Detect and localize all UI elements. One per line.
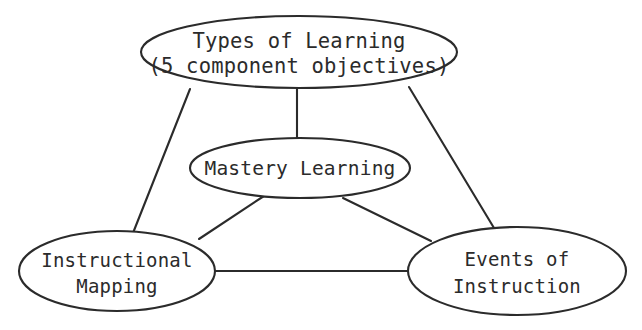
- edge-mastery-to-mapping: [199, 196, 264, 239]
- concept-diagram-canvas: Types of Learning (5 component objective…: [0, 0, 642, 330]
- node-label-events-of-instruction-line2: Instruction: [453, 275, 581, 297]
- node-events-of-instruction[interactable]: Events of Instruction: [408, 227, 626, 315]
- node-mastery-learning[interactable]: Mastery Learning: [190, 138, 410, 198]
- node-label-instructional-mapping-line2: Mapping: [76, 275, 157, 297]
- node-ellipse-instructional-mapping[interactable]: [19, 231, 215, 311]
- node-types-of-learning[interactable]: Types of Learning (5 component objective…: [141, 16, 457, 88]
- node-instructional-mapping[interactable]: Instructional Mapping: [19, 231, 215, 311]
- node-ellipse-events-of-instruction[interactable]: [408, 227, 626, 315]
- node-label-types-of-learning-line2: (5 component objectives): [148, 54, 449, 78]
- node-label-mastery-learning: Mastery Learning: [204, 157, 395, 180]
- node-label-instructional-mapping-line1: Instructional: [41, 249, 192, 271]
- node-label-events-of-instruction-line1: Events of: [465, 248, 570, 270]
- concept-diagram-svg: Types of Learning (5 component objective…: [0, 0, 642, 330]
- edge-mastery-to-events: [343, 198, 431, 241]
- node-label-types-of-learning-line1: Types of Learning: [192, 29, 405, 53]
- edge-types-to-events: [409, 87, 494, 228]
- edge-types-to-mapping: [133, 89, 190, 233]
